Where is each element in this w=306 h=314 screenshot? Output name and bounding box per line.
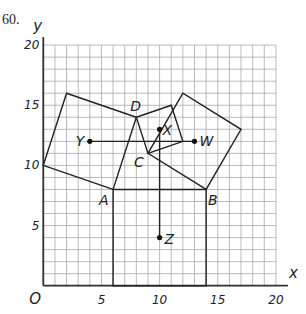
y-tick-label: 5 — [32, 219, 40, 233]
axes: xyO51015205101520 — [24, 17, 298, 308]
x-axis-label: x — [288, 264, 298, 282]
point-labels: ABCDWXYZ — [76, 98, 218, 246]
label-d: D — [130, 98, 141, 114]
origin-label: O — [29, 290, 41, 308]
x-tick-label: 10 — [152, 293, 168, 307]
label-w: W — [199, 133, 214, 149]
point-z — [157, 235, 162, 240]
y-tick-label: 20 — [24, 38, 40, 52]
x-tick-label: 5 — [98, 293, 106, 307]
label-y: Y — [76, 133, 86, 149]
point-x — [157, 127, 162, 132]
center-points — [87, 127, 197, 240]
label-a: A — [98, 192, 109, 208]
y-tick-label: 10 — [24, 158, 40, 172]
x-tick-label: 20 — [268, 293, 284, 307]
y-tick-label: 15 — [24, 98, 39, 112]
label-c: C — [134, 154, 144, 170]
y-axis-label: y — [32, 17, 43, 35]
label-b: B — [208, 192, 218, 208]
label-x: X — [162, 122, 173, 138]
coordinate-diagram: xyO51015205101520 ABCDWXYZ — [0, 0, 306, 314]
label-z: Z — [164, 231, 175, 247]
x-tick-label: 15 — [210, 293, 225, 307]
center-segments — [90, 129, 195, 237]
point-w — [192, 139, 197, 144]
point-y — [87, 139, 92, 144]
